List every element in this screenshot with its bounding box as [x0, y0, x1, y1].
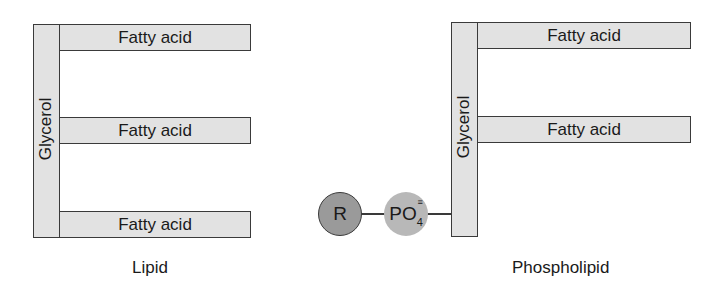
- phosphate-label: PO4≡: [389, 203, 423, 225]
- lipid-caption: Lipid: [132, 258, 168, 278]
- phosphate-subscript: 4: [417, 216, 423, 228]
- phosphate-glycerol-bond: [427, 213, 452, 215]
- lipid-fatty-acid-1: Fatty acid: [59, 24, 251, 51]
- phospholipid-glycerol-label: Glycerol: [454, 87, 474, 167]
- lipid-fatty-acid-2: Fatty acid: [59, 117, 251, 144]
- phospholipid-fatty-acid-2: Fatty acid: [477, 116, 691, 143]
- phospholipid-fatty-acid-1: Fatty acid: [477, 22, 691, 49]
- lipid-glycerol-label: Glycerol: [36, 89, 56, 169]
- phosphate-formula: PO: [389, 203, 416, 224]
- r-phosphate-bond: [361, 213, 385, 215]
- phosphate-group-circle: PO4≡: [384, 192, 428, 236]
- r-group-label: R: [333, 203, 347, 225]
- r-group-circle: R: [318, 192, 362, 236]
- phospholipid-caption: Phospholipid: [512, 258, 609, 278]
- phosphate-charge: ≡: [418, 197, 423, 207]
- lipid-fatty-acid-3: Fatty acid: [59, 211, 251, 238]
